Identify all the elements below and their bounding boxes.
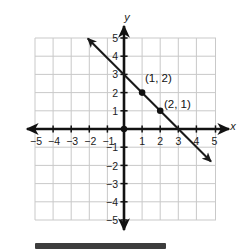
origin-point <box>121 126 127 132</box>
y-tick-label: 4 <box>112 50 118 62</box>
point-label-2-1: (2, 1) <box>164 98 191 110</box>
x-tick-label: −5 <box>30 135 42 147</box>
y-tick-label: −3 <box>106 178 118 190</box>
y-tick-label: 3 <box>112 68 118 80</box>
y-tick-label: −5 <box>106 214 118 226</box>
x-tick-label: −4 <box>48 135 60 147</box>
x-tick-label: 2 <box>157 135 163 147</box>
y-tick-label: 2 <box>112 87 118 99</box>
y-tick-label: −2 <box>106 160 118 172</box>
coordinate-plane: −5 −4 −3 −2 −1 1 2 3 4 5 5 4 3 2 1 −1 −2… <box>0 0 250 250</box>
x-tick-label: −3 <box>66 135 78 147</box>
data-point-1-2 <box>139 89 146 96</box>
y-tick-label: 1 <box>112 105 118 117</box>
bottom-answer-bar <box>35 243 166 249</box>
x-axis-label: x <box>229 120 236 132</box>
data-point-2-1 <box>157 108 164 115</box>
x-tick-label: −2 <box>84 135 96 147</box>
y-tick-label: −4 <box>106 196 118 208</box>
x-tick-label: 5 <box>212 135 218 147</box>
x-tick-label: 1 <box>139 135 145 147</box>
point-label-1-2: (1, 2) <box>145 72 172 84</box>
y-tick-label: −1 <box>106 141 118 153</box>
y-axis-label: y <box>123 11 131 23</box>
x-tick-label: 3 <box>175 135 181 147</box>
graph-figure: −5 −4 −3 −2 −1 1 2 3 4 5 5 4 3 2 1 −1 −2… <box>0 0 250 250</box>
y-tick-label: 5 <box>112 32 118 44</box>
